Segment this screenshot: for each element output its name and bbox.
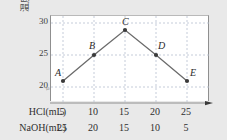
y-tick-label-30: 30 [32,17,48,26]
plot-svg [51,16,210,102]
data-point-c [123,28,127,32]
hcl-value-4: 20 [145,104,165,120]
chart-figure: 温度(℃) 30 25 20 ≈ [0,0,227,140]
y-tick-label-25: 25 [32,49,48,58]
horizontal-gridlines [51,23,210,87]
hcl-value-2: 10 [83,104,103,120]
data-point-b [92,53,96,57]
naoh-value-4: 10 [145,120,165,136]
point-label-c: C [122,17,129,27]
point-label-a: A [55,68,61,78]
naoh-value-2: 20 [83,120,103,136]
naoh-value-5: 5 [176,120,196,136]
hcl-value-5: 25 [176,104,196,120]
x-axis-row-hcl: HCl(mL) 5 10 15 20 25 [0,104,227,120]
x-axis-row-naoh: NaOH(mL) 25 20 15 10 5 [0,120,227,136]
point-label-e: E [190,68,196,78]
data-point-e [185,79,189,83]
point-label-b: B [89,41,95,51]
naoh-value-1: 25 [52,120,72,136]
hcl-value-3: 15 [114,104,134,120]
hcl-value-1: 5 [52,104,72,120]
x-axis-label-table: HCl(mL) 5 10 15 20 25 NaOH(mL) 25 20 15 … [0,104,227,140]
plot-area: A B C D E [50,15,209,101]
data-point-a [61,79,65,83]
naoh-value-3: 15 [114,120,134,136]
point-label-d: D [158,41,165,51]
data-point-d [154,53,158,57]
